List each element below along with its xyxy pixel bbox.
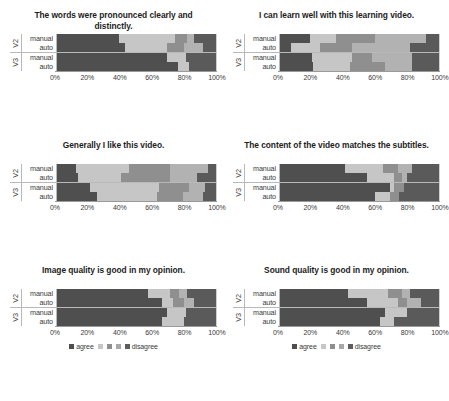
bar-segment <box>375 192 389 201</box>
bar-row <box>280 164 439 173</box>
x-tick-label: 20% <box>81 329 95 336</box>
chart-panel: Generally I like this video.V2V3manualau… <box>2 134 225 259</box>
x-tick-label: 20% <box>81 74 95 81</box>
stacked-bar <box>57 62 216 71</box>
x-tick-label: 60% <box>368 204 382 211</box>
bar-segment <box>197 173 216 182</box>
stacked-bar <box>57 317 216 326</box>
category-label-manual: manual <box>245 164 279 173</box>
group-label-text: V3 <box>234 188 243 197</box>
bar-segment <box>367 173 394 182</box>
category-label-auto: auto <box>245 173 279 182</box>
x-tick-label: 100% <box>431 74 449 81</box>
bar-segment <box>170 164 208 173</box>
stacked-bar <box>280 317 439 326</box>
stacked-bar <box>280 308 439 317</box>
bar-row <box>280 289 439 298</box>
bar-segment <box>57 43 125 52</box>
group-label-text: V2 <box>234 294 243 303</box>
stacked-bar <box>57 183 216 192</box>
x-axis: 0%20%40%60%80%100% <box>278 326 440 341</box>
category-label-auto: auto <box>22 62 56 71</box>
legend-item: agree <box>292 343 316 350</box>
chart-panel: Sound quality is good in my opinion.V2V3… <box>225 259 448 401</box>
chart-title: Generally I like this video. <box>2 134 225 161</box>
category-axis: manualautomanualauto <box>22 164 57 201</box>
stacked-bar <box>280 289 439 298</box>
bar-segment <box>184 317 216 326</box>
stacked-bar <box>57 173 216 182</box>
bar-row <box>57 34 216 43</box>
bar-segment <box>372 53 412 62</box>
x-axis: 0%20%40%60%80%100% <box>55 71 217 86</box>
legend-label: agree <box>76 343 93 350</box>
bar-row <box>57 289 216 298</box>
category-label-auto: auto <box>22 317 56 326</box>
bar-row <box>280 34 439 43</box>
bar-segment <box>57 183 90 192</box>
x-tick-label: 100% <box>208 204 226 211</box>
bar-row <box>57 308 216 317</box>
plot-area: V2V3manualautomanualauto0%20%40%60%80%10… <box>10 289 217 341</box>
bar-segment <box>170 173 197 182</box>
bar-segment <box>57 289 148 298</box>
bar-segment <box>410 289 439 298</box>
bar-segment <box>398 164 412 173</box>
bar-group <box>57 164 216 182</box>
category-label-manual: manual <box>245 183 279 192</box>
category-label-auto: auto <box>245 317 279 326</box>
bar-segment <box>280 183 390 192</box>
bar-segment <box>412 53 439 62</box>
x-tick-label: 40% <box>336 329 350 336</box>
legend-item <box>116 344 121 349</box>
category-label-auto: auto <box>22 298 56 307</box>
bar-segment <box>194 298 216 307</box>
bar-segment <box>407 308 439 317</box>
legend-swatch <box>69 344 74 349</box>
bar-group <box>280 289 439 307</box>
x-tick-label: 0% <box>50 74 60 81</box>
bar-group <box>280 307 439 326</box>
group-label-v2: V2 <box>10 164 21 182</box>
bar-segment <box>280 192 375 201</box>
group-label-v2: V2 <box>233 34 244 52</box>
x-tick-label: 20% <box>304 74 318 81</box>
bar-segment <box>57 317 162 326</box>
stacked-bar <box>57 53 216 62</box>
bar-segment <box>280 43 291 52</box>
stacked-bar <box>280 164 439 173</box>
group-label-text: V3 <box>234 313 243 322</box>
bar-segment <box>388 289 402 298</box>
stacked-bar <box>280 183 439 192</box>
group-label-v3: V3 <box>233 52 244 71</box>
stacked-bar <box>280 192 439 201</box>
x-tick-label: 80% <box>401 74 415 81</box>
bar-segment <box>280 62 313 71</box>
bar-group <box>57 307 216 326</box>
group-label-v2: V2 <box>10 34 21 52</box>
x-tick-label: 20% <box>81 204 95 211</box>
bar-segment <box>291 43 320 52</box>
bar-segment <box>398 298 408 307</box>
category-axis: manualautomanualauto <box>22 34 57 71</box>
stacked-bar <box>57 289 216 298</box>
group-label-text: V2 <box>11 169 20 178</box>
legend-swatch <box>348 344 353 349</box>
category-label-manual: manual <box>245 289 279 298</box>
bar-row <box>57 173 216 182</box>
x-tick-label: 0% <box>273 74 283 81</box>
bar-segment <box>426 34 439 43</box>
group-label-v3: V3 <box>10 52 21 71</box>
bar-row <box>280 62 439 71</box>
bars-area <box>57 34 217 71</box>
category-group: manualauto <box>22 307 56 326</box>
bar-segment <box>162 317 184 326</box>
bar-group <box>57 289 216 307</box>
plot-area: V2V3manualautomanualauto0%20%40%60%80%10… <box>233 34 440 86</box>
bar-segment <box>375 34 426 43</box>
group-label-v3: V3 <box>10 307 21 326</box>
x-tick-label: 80% <box>401 329 415 336</box>
bar-segment <box>57 192 97 201</box>
bars-area <box>280 289 440 326</box>
category-axis: manualautomanualauto <box>245 164 280 201</box>
